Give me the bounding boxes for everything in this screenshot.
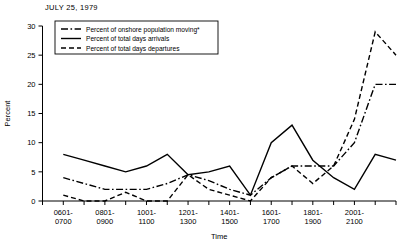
chart-plot-area: 051015202530Percent0601-07000801-0900100… <box>0 0 405 244</box>
x-tick-label-line2: 1500 <box>221 217 238 226</box>
y-tick-label: 30 <box>27 22 35 31</box>
legend-label-1: Percent of total days arrivals <box>86 35 170 43</box>
x-tick-label-line1: 1801- <box>303 208 323 217</box>
y-tick-label: 25 <box>27 51 35 60</box>
y-axis-title: Percent <box>3 100 12 127</box>
x-tick-label-line2: 0900 <box>97 217 114 226</box>
y-tick-label: 10 <box>27 138 35 147</box>
x-axis-title: Time <box>211 232 227 241</box>
x-tick-label-line2: 1300 <box>180 217 197 226</box>
chart-series-line-1 <box>63 125 396 195</box>
x-tick-label-line2: 1900 <box>304 217 321 226</box>
x-tick-label-line1: 0601- <box>54 208 74 217</box>
legend-label-2: Percent of total days departures <box>86 45 180 53</box>
legend-label-0: Percent of onshore population moving* <box>86 26 200 34</box>
chart-series-line-0 <box>63 84 396 195</box>
x-tick-label-line2: 2100 <box>346 217 363 226</box>
chart-series-line-2 <box>63 32 396 201</box>
x-tick-label-line1: 2001- <box>345 208 365 217</box>
y-axis-ticks: 051015202530 <box>27 22 42 206</box>
x-tick-label-line2: 1100 <box>138 217 154 226</box>
y-tick-label: 5 <box>31 168 35 177</box>
x-tick-label-line2: 1700 <box>263 217 280 226</box>
x-tick-label-line1: 1201- <box>178 208 198 217</box>
x-axis-labels: 0601-07000801-09001001-11001201-13001401… <box>54 208 365 226</box>
x-tick-label-line2: 0700 <box>55 217 72 226</box>
chart-figure: JULY 25, 1979 051015202530Percent0601-07… <box>0 0 405 244</box>
y-tick-label: 15 <box>27 109 35 118</box>
chart-legend: Percent of onshore population moving*Per… <box>55 21 218 54</box>
x-tick-label-line1: 1601- <box>262 208 282 217</box>
x-tick-label-line1: 1401- <box>220 208 240 217</box>
y-tick-label: 0 <box>31 197 35 206</box>
y-tick-label: 20 <box>27 80 35 89</box>
x-tick-label-line1: 1001- <box>137 208 157 217</box>
x-tick-label-line1: 0801- <box>95 208 115 217</box>
